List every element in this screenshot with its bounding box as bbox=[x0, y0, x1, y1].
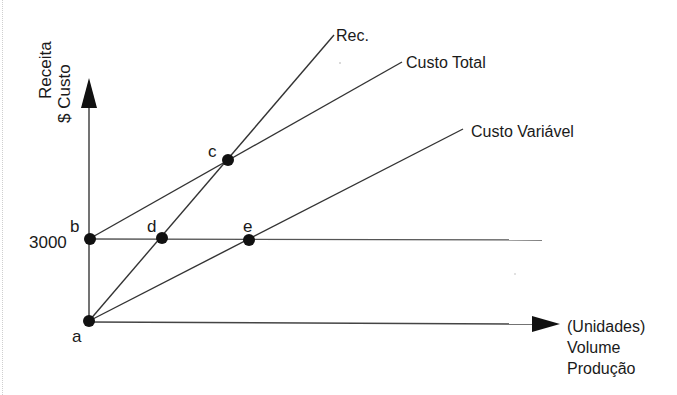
point-d bbox=[156, 232, 168, 244]
y-axis-label-receita: Receita bbox=[36, 41, 55, 99]
point-a bbox=[83, 315, 95, 327]
x-axis-label-volume: Volume bbox=[567, 339, 620, 356]
total-cost-line-label: Custo Total bbox=[406, 54, 486, 71]
point-b bbox=[84, 233, 96, 245]
x-axis-arrow-icon bbox=[532, 316, 560, 332]
y-axis-label-custo: $ Custo bbox=[55, 64, 74, 123]
speck bbox=[339, 62, 341, 64]
revenue-line-label: Rec. bbox=[336, 27, 369, 44]
point-b-label: b bbox=[70, 217, 79, 236]
point-a-label: a bbox=[72, 327, 82, 346]
y-axis-arrow-icon bbox=[81, 78, 97, 108]
y-tick-3000: 3000 bbox=[29, 233, 67, 252]
x-axis-label-producao: Produção bbox=[567, 360, 636, 377]
point-c-label: c bbox=[208, 142, 217, 161]
point-e-label: e bbox=[243, 217, 252, 236]
x-axis-label-unidades: (Unidades) bbox=[567, 318, 645, 335]
x-axis bbox=[89, 322, 534, 324]
break-even-diagram: a b c d e 3000 Rec. Custo Total Custo Va… bbox=[0, 0, 677, 395]
revenue-line bbox=[89, 35, 334, 321]
variable-cost-line bbox=[89, 129, 463, 321]
total-cost-line bbox=[89, 62, 402, 239]
variable-cost-line-label: Custo Variável bbox=[471, 123, 574, 140]
speck bbox=[514, 273, 516, 275]
point-d-label: d bbox=[147, 217, 156, 236]
point-c bbox=[222, 154, 234, 166]
